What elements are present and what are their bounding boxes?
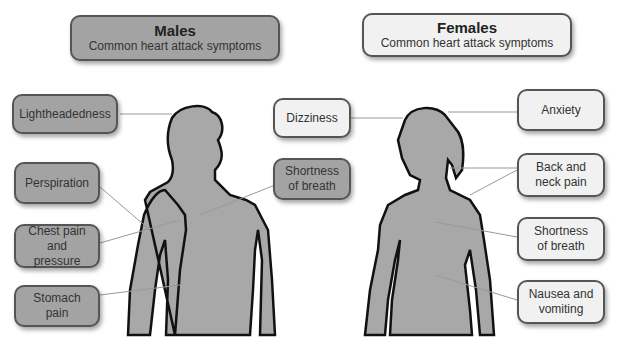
males-subtitle: Common heart attack symptoms — [89, 39, 262, 54]
symptom-anxiety: Anxiety — [517, 89, 605, 131]
symptom-back-neck-pain: Back and neck pain — [517, 153, 605, 197]
male-silhouette — [128, 106, 275, 335]
female-silhouette — [365, 108, 494, 335]
symptom-dizziness: Dizziness — [273, 98, 351, 138]
symptom-shortness-of-breath-male: Shortness of breath — [273, 158, 351, 200]
females-title: Females — [437, 19, 497, 36]
symptom-perspiration: Perspiration — [14, 162, 100, 204]
males-header: Males Common heart attack symptoms — [70, 15, 280, 61]
females-subtitle: Common heart attack symptoms — [381, 36, 554, 51]
symptom-nausea-vomiting: Nausea and vomiting — [517, 280, 605, 324]
symptom-shortness-of-breath-female: Shortness of breath — [517, 217, 605, 261]
symptom-chest-pain: Chest pain and pressure — [14, 224, 100, 268]
females-header: Females Common heart attack symptoms — [362, 13, 572, 57]
males-title: Males — [154, 22, 196, 39]
symptom-stomach-pain: Stomach pain — [14, 285, 100, 327]
symptom-lightheadedness: Lightheadedness — [12, 94, 118, 134]
